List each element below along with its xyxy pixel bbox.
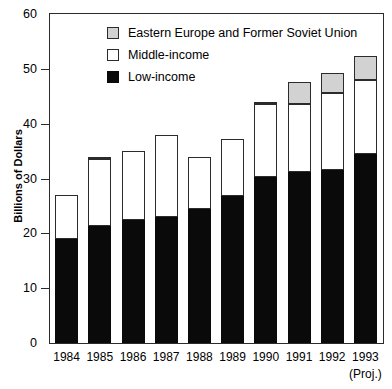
- bar-segment[interactable]: [254, 104, 277, 177]
- bar-segment[interactable]: [354, 154, 377, 343]
- x-axis-label: 1993: [342, 350, 388, 364]
- x-axis-sublabel: (Proj.): [342, 367, 388, 381]
- y-axis-label: 20: [0, 226, 37, 240]
- legend-item[interactable]: Middle-income: [107, 44, 357, 66]
- bar-segment[interactable]: [288, 104, 311, 172]
- bar-segment[interactable]: [354, 80, 377, 155]
- y-axis-tick: [41, 233, 50, 234]
- legend-item[interactable]: Eastern Europe and Former Soviet Union: [107, 22, 357, 44]
- legend-swatch-icon: [107, 49, 119, 61]
- bar-segment[interactable]: [221, 139, 244, 196]
- bar-segment[interactable]: [188, 157, 211, 209]
- bar-segment[interactable]: [321, 170, 344, 343]
- y-axis-tick: [41, 179, 50, 180]
- y-axis-label: 10: [0, 281, 37, 295]
- bar-segment[interactable]: [155, 217, 178, 343]
- legend-swatch-icon: [107, 71, 119, 83]
- bar-segment[interactable]: [155, 135, 178, 217]
- y-axis-label: 30: [0, 172, 37, 186]
- bar-segment[interactable]: [122, 220, 145, 343]
- y-axis-label: 0: [0, 336, 37, 350]
- y-axis-label: 40: [0, 117, 37, 131]
- bar-segment[interactable]: [254, 177, 277, 343]
- bar-segment[interactable]: [254, 102, 277, 105]
- legend-label: Middle-income: [128, 48, 209, 62]
- y-axis-tick: [41, 69, 50, 70]
- stacked-bar-chart: Billions of Dollars Eastern Europe and F…: [0, 0, 392, 389]
- y-axis-label: 50: [0, 62, 37, 76]
- legend-label: Low-income: [128, 70, 195, 84]
- legend-item[interactable]: Low-income: [107, 66, 357, 88]
- bar-segment[interactable]: [55, 239, 78, 343]
- legend-label: Eastern Europe and Former Soviet Union: [128, 26, 357, 40]
- y-axis-label: 60: [0, 7, 37, 21]
- bar-segment[interactable]: [321, 93, 344, 170]
- y-axis-tick: [41, 124, 50, 125]
- bar-segment[interactable]: [55, 195, 78, 239]
- bar-segment[interactable]: [88, 157, 111, 159]
- bar-segment[interactable]: [188, 209, 211, 343]
- chart-legend: Eastern Europe and Former Soviet UnionMi…: [107, 22, 357, 88]
- bar-segment[interactable]: [288, 172, 311, 343]
- bar-segment[interactable]: [88, 159, 111, 226]
- bar-segment[interactable]: [88, 226, 111, 343]
- y-axis-tick: [41, 288, 50, 289]
- bar-segment[interactable]: [354, 56, 377, 80]
- bar-segment[interactable]: [122, 151, 145, 220]
- legend-swatch-icon: [107, 27, 119, 39]
- bar-segment[interactable]: [221, 196, 244, 343]
